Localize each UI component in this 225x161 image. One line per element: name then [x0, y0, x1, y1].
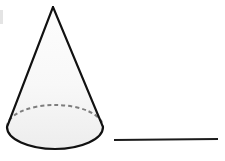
cone-apex-point	[52, 7, 54, 9]
cone-and-segment-figure	[0, 0, 225, 161]
line-segment	[114, 139, 218, 140]
figure-canvas	[0, 0, 225, 161]
scan-edge-artifact	[0, 10, 3, 24]
cone-lateral-surface	[7, 7, 103, 149]
